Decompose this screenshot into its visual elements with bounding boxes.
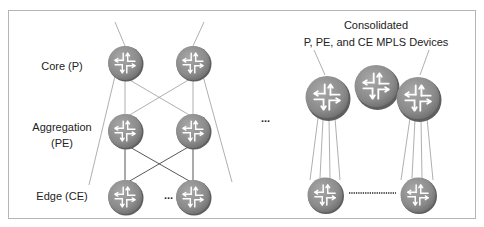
label-edge: Edge (CE) [36,190,87,202]
ellipsis-edge: ... [164,189,173,201]
label-aggregation-pe: (PE) [51,137,73,149]
router-edge-2 [176,180,212,216]
router-edge-1 [108,180,144,216]
router-core-1 [108,46,144,82]
left-connections-lower [125,146,193,182]
label-aggregation: Aggregation [32,121,91,133]
title-consolidated: Consolidated [344,19,408,31]
router-consolidated-right [397,77,442,122]
title-devices: P, PE, and CE MPLS Devices [304,36,449,48]
network-diagram: Core (P) Aggregation (PE) Edge (CE) ... … [0,0,484,227]
router-consolidated-edge-2 [401,178,438,215]
ellipsis-middle: ... [261,112,270,124]
router-aggregation-1 [108,114,144,150]
left-connections [89,22,232,185]
router-consolidated-left [306,76,351,121]
router-consolidated-middle [355,65,400,110]
router-consolidated-edge-1 [308,178,345,215]
router-aggregation-2 [176,114,212,150]
router-core-2 [176,46,212,82]
label-core: Core (P) [41,60,83,72]
